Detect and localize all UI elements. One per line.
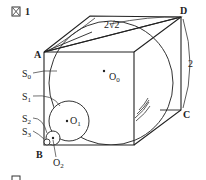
edge-length-label: 2 [188, 58, 193, 69]
diagonal-length-label: 2√2 [104, 19, 120, 30]
vertex-b-label: B [36, 149, 43, 160]
s3-label: S3 [22, 126, 32, 139]
center-o0-dot [103, 70, 105, 72]
s2-label: S2 [22, 113, 32, 126]
next-figure-title-partial [12, 176, 20, 180]
o2-label: O2 [53, 157, 64, 170]
vertex-a-label: A [34, 49, 42, 60]
figure-number: 1 [25, 6, 30, 17]
center-o2-dot [52, 137, 54, 139]
cube-sphere-diagram: 1 [0, 0, 206, 180]
vertex-c-label: C [183, 109, 190, 120]
s1-label: S1 [22, 91, 32, 104]
center-o1-dot [66, 120, 68, 122]
o0-label: O0 [109, 71, 120, 84]
figure-title: 1 [12, 6, 30, 17]
s0-label: S0 [22, 68, 32, 81]
sphere-s3 [44, 139, 50, 145]
vertex-d-label: D [180, 5, 187, 16]
